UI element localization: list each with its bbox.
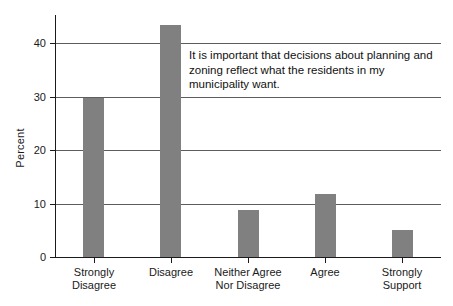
x-tick-mark xyxy=(171,258,172,263)
y-tick-label: 30 xyxy=(16,92,46,103)
chart-annotation: It is important that decisions about pla… xyxy=(189,48,441,92)
bar xyxy=(160,25,181,257)
y-tick-label: 10 xyxy=(16,199,46,210)
y-tick-label: 20 xyxy=(16,145,46,156)
y-axis-line xyxy=(55,15,56,258)
y-tick-label: 0 xyxy=(16,252,46,263)
x-tick-mark xyxy=(402,258,403,263)
x-tick-mark xyxy=(325,258,326,263)
bar xyxy=(392,230,413,257)
y-tick-label: 40 xyxy=(16,38,46,49)
x-tick-mark xyxy=(94,258,95,263)
gridline xyxy=(55,204,441,205)
bar-chart-figure: Percent 403020100 Strongly DisagreeDisag… xyxy=(0,0,453,306)
bar xyxy=(238,210,259,257)
gridline xyxy=(55,150,441,151)
bar xyxy=(315,194,336,257)
x-axis-category-label: Strongly Support xyxy=(352,266,452,292)
gridline xyxy=(55,97,441,98)
x-tick-mark xyxy=(248,258,249,263)
gridline xyxy=(55,43,441,44)
bar xyxy=(83,98,104,257)
